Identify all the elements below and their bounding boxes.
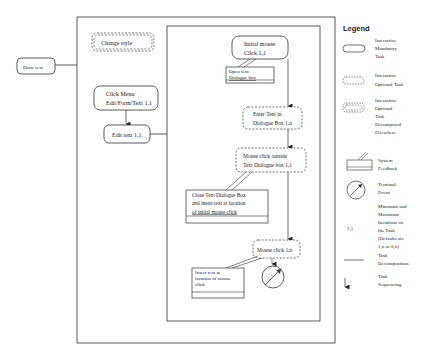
task-click-menu: Click Menu Edit/Form/Text 1,1	[94, 86, 158, 110]
svg-text:Interactive: Interactive	[375, 38, 397, 43]
svg-text:Draw text: Draw text	[23, 65, 43, 70]
legend-mandatory-task-icon	[343, 45, 365, 52]
svg-text:Mandatory: Mandatory	[375, 46, 397, 51]
svg-text:Click Menu: Click Menu	[106, 91, 135, 97]
task-edit-text: Edit text 1,1	[104, 125, 150, 143]
svg-text:Task: Task	[375, 114, 385, 119]
svg-text:Legend: Legend	[343, 24, 370, 33]
task-change-style: Change style	[92, 33, 154, 51]
svg-text:Click 1,1: Click 1,1	[244, 50, 266, 56]
task-diagram: Draw text Change style Click Menu Edit/F…	[0, 0, 432, 356]
svg-text:of initial mouse click: of initial mouse click	[192, 209, 237, 215]
svg-text:location of mouse: location of mouse	[195, 276, 232, 281]
svg-text:Event: Event	[378, 190, 390, 195]
svg-text:Iterations on: Iterations on	[378, 220, 404, 225]
svg-text:Feedback: Feedback	[378, 166, 398, 171]
svg-text:Close Text Dialogue Box: Close Text Dialogue Box	[192, 192, 246, 198]
svg-text:(Defaults are: (Defaults are	[378, 236, 405, 241]
svg-text:Interactive: Interactive	[375, 73, 397, 78]
svg-text:the Task: the Task	[378, 228, 395, 233]
legend: Legend Interactive Mandatory Task Intera…	[343, 24, 409, 287]
svg-text:Task: Task	[378, 274, 388, 279]
svg-text:Open text: Open text	[229, 69, 249, 74]
svg-text:Task: Task	[375, 54, 385, 59]
task-enter-text: Enter Text in Dialogue Box 1,n	[243, 107, 302, 129]
legend-system-feedback-icon	[347, 152, 372, 170]
svg-text:Change style: Change style	[101, 40, 132, 46]
svg-text:Enter Text in: Enter Text in	[253, 111, 282, 117]
svg-text:Minimum and: Minimum and	[378, 204, 407, 209]
svg-text:Sequencing: Sequencing	[378, 282, 402, 287]
task-mouse-click: Mouse click 1,n	[253, 240, 300, 258]
feedback-open-text-dialogue: Open text Dialogue box	[226, 67, 274, 83]
svg-text:Task: Task	[378, 253, 388, 258]
svg-text:Edit text 1,1: Edit text 1,1	[112, 132, 142, 138]
svg-text:Insert text at: Insert text at	[195, 270, 221, 275]
svg-text:and insert text at location: and insert text at location	[192, 200, 246, 206]
task-initial-mouse-click: Initial mouse Click 1,1	[232, 36, 288, 59]
svg-text:Elsewhere: Elsewhere	[375, 130, 397, 135]
svg-text:Dialogue Box 1,n: Dialogue Box 1,n	[253, 120, 292, 126]
legend-decomposed-task-icon	[343, 103, 364, 112]
svg-text:Mouse click outside: Mouse click outside	[243, 153, 288, 159]
svg-text:Edit/Form/Text 1,1: Edit/Form/Text 1,1	[106, 100, 152, 106]
svg-text:Terminal: Terminal	[378, 182, 397, 187]
svg-text:Mouse click 1,n: Mouse click 1,n	[257, 247, 293, 253]
svg-text:Maximum: Maximum	[378, 212, 399, 217]
legend-terminal-event-icon	[347, 181, 365, 199]
svg-text:click: click	[195, 282, 205, 287]
legend-optional-task-icon	[343, 77, 364, 84]
terminal-event-icon	[262, 266, 284, 288]
svg-text:Decomposed: Decomposed	[375, 122, 402, 127]
svg-text:Text Dialogue box 1,1: Text Dialogue box 1,1	[243, 162, 292, 168]
svg-text:System: System	[378, 158, 393, 163]
svg-text:1,1: 1,1	[347, 226, 354, 232]
svg-text:Interactive: Interactive	[375, 98, 397, 103]
feedback-close-text-dialogue: Close Text Dialogue Box and insert text …	[186, 190, 268, 223]
svg-text:Optional Task: Optional Task	[375, 82, 404, 87]
svg-text:Dialogue box: Dialogue box	[229, 75, 257, 80]
task-mouse-click-outside: Mouse click outside Text Dialogue box 1,…	[236, 148, 306, 172]
svg-text:Initial mouse: Initial mouse	[244, 41, 276, 47]
svg-text:Optional: Optional	[375, 106, 393, 111]
svg-text:Decomposition: Decomposition	[378, 261, 409, 266]
root-task-draw-text: Draw text	[17, 58, 55, 74]
feedback-insert-text: Insert text at location of mouse click	[192, 268, 244, 298]
svg-text:1,n or 0,n): 1,n or 0,n)	[378, 244, 399, 250]
